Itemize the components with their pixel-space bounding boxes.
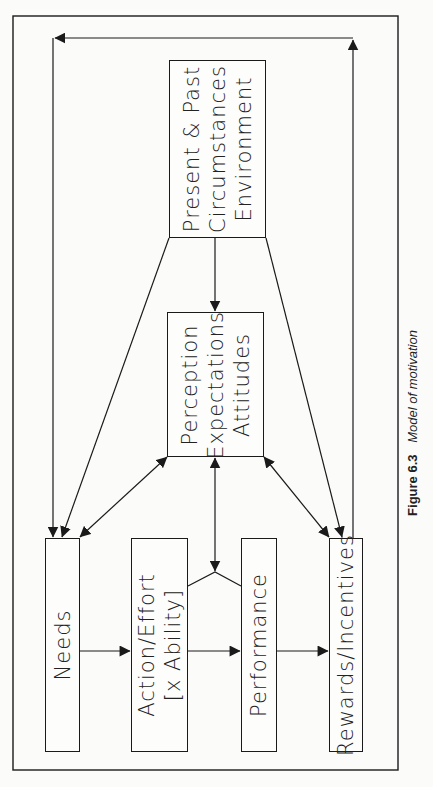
rewards-incentives-label: Rewards/Incentives: [333, 534, 359, 756]
rewards-incentives-box: Rewards/Incentives: [329, 538, 363, 752]
perception-needs-two-way-arrow: [80, 457, 167, 537]
performance-box: Performance: [241, 538, 277, 752]
needs-label: Needs: [50, 610, 76, 681]
present-to-needs-arrow: [62, 238, 169, 537]
performance-label: Performance: [246, 573, 272, 717]
perception-box: Perception Expectations Attitudes: [167, 312, 264, 457]
perception-label: Perception Expectations Attitudes: [177, 311, 255, 459]
present-circumstances-box: Present & Past Circumstances Environment: [169, 60, 266, 238]
present-circumstances-label: Present & Past Circumstances Environment: [179, 65, 257, 233]
figure-caption: Figure 6.3 Model of motivation: [405, 330, 420, 516]
perception-rewards-two-way-arrow: [264, 457, 329, 537]
needs-box: Needs: [45, 538, 80, 752]
present-to-rewards-arrow: [266, 238, 342, 537]
motivation-diagram: Present & Past Circumstances Environment…: [0, 0, 433, 787]
action-effort-box: Action/Effort [x Ability]: [131, 538, 188, 752]
link-fork-lines: [188, 572, 241, 586]
figure-title: Model of motivation: [405, 330, 420, 443]
figure-number: Figure 6.3: [405, 454, 420, 515]
action-effort-label: Action/Effort [x Ability]: [134, 573, 186, 717]
